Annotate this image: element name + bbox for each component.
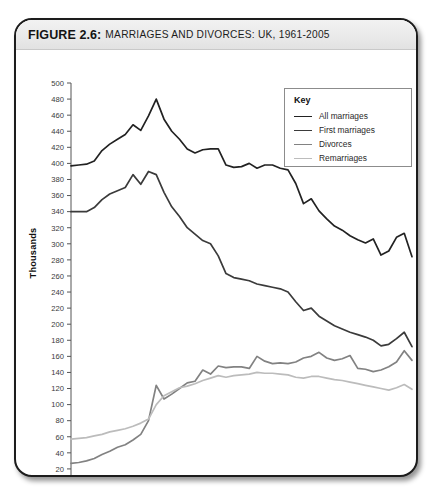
chart-plot-area: Thousands 204060801001201401601802002202… [16,50,416,477]
figure-title: MARRIAGES AND DIVORCES: UK, 1961-2005 [105,29,329,40]
legend-item-first-marriages: First marriages [294,123,403,137]
y-tick-label: 200 [51,320,64,329]
y-tick-label: 140 [51,368,64,377]
chart-legend: Key All marriages First marriages Divorc… [284,88,412,167]
series-line-remarriages [71,372,412,439]
y-tick-label: 380 [51,175,64,184]
y-tick-label: 480 [51,95,64,104]
legend-label-remarriages: Remarriages [319,153,367,163]
legend-label-divorces: Divorces [319,139,352,149]
y-tick-label: 500 [51,79,64,88]
y-tick-label: 420 [51,143,64,152]
y-tick-label: 260 [51,272,64,281]
y-tick-label: 100 [51,400,64,409]
y-tick-label: 360 [51,191,64,200]
y-tick-label: 120 [51,384,64,393]
series-line-divorces [71,351,412,464]
figure-header: FIGURE 2.6: MARRIAGES AND DIVORCES: UK, … [16,20,416,50]
y-tick-label: 280 [51,256,64,265]
legend-title: Key [294,95,403,105]
legend-item-all-marriages: All marriages [294,109,403,123]
y-tick-label: 320 [51,224,64,233]
legend-swatch-divorces [294,144,312,145]
legend-item-remarriages: Remarriages [294,151,403,165]
legend-label-all-marriages: All marriages [319,111,368,121]
screenshot-root: FIGURE 2.6: MARRIAGES AND DIVORCES: UK, … [0,0,437,503]
y-tick-label: 40 [56,449,64,458]
y-tick-label: 440 [51,127,64,136]
y-tick-label: 400 [51,159,64,168]
legend-label-first-marriages: First marriages [319,125,375,135]
series-line-first-marriages [71,171,412,346]
legend-swatch-all-marriages [294,116,312,117]
y-tick-label: 240 [51,288,64,297]
y-tick-label: 180 [51,336,64,345]
y-tick-label: 460 [51,111,64,120]
figure-card: FIGURE 2.6: MARRIAGES AND DIVORCES: UK, … [14,18,418,477]
y-tick-label: 160 [51,352,64,361]
y-tick-label: 60 [56,433,64,442]
y-axis-ticks: 2040608010012014016018020022024026028030… [51,79,71,474]
legend-swatch-first-marriages [294,130,312,131]
figure-number: FIGURE 2.6: [28,28,101,42]
legend-swatch-remarriages [294,158,312,159]
y-tick-label: 20 [56,465,64,474]
y-tick-label: 340 [51,207,64,216]
y-tick-label: 220 [51,304,64,313]
legend-item-divorces: Divorces [294,137,403,151]
y-tick-label: 80 [56,416,64,425]
y-tick-label: 300 [51,240,64,249]
